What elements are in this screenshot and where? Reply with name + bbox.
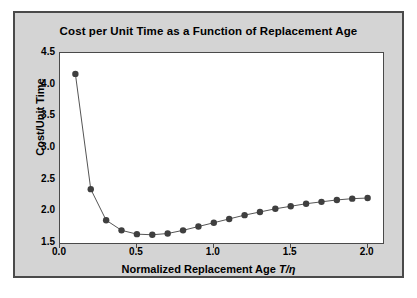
data-point-marker [272,206,278,212]
data-point-marker [103,217,109,223]
data-point-marker [180,227,186,233]
y-tick-label: 2.0 [29,205,55,215]
data-series-line [60,53,383,243]
data-point-marker [88,186,94,192]
data-point-marker [257,209,263,215]
chart-title: Cost per Unit Time as a Function of Repl… [15,25,402,37]
data-point-marker [195,223,201,229]
data-point-marker [318,199,324,205]
data-point-marker [211,220,217,226]
data-point-marker [149,232,155,238]
x-tick-label: 0.5 [116,247,156,257]
series-polyline [75,74,367,235]
data-point-marker [241,212,247,218]
data-point-marker [72,71,78,77]
data-point-marker [349,195,355,201]
data-point-marker [134,231,140,237]
plot-area [59,52,384,244]
figure-panel: Cost per Unit Time as a Function of Repl… [13,11,404,278]
data-point-marker [288,203,294,209]
y-axis-title: Cost/Unit Time [34,47,46,187]
data-point-marker [118,227,124,233]
data-point-marker [164,230,170,236]
x-tick-label: 0.0 [39,247,79,257]
data-point-marker [226,216,232,222]
x-tick-label: 2.0 [347,247,387,257]
x-axis-title: Normalized Replacement Age T/η [15,263,402,275]
data-point-marker [364,195,370,201]
x-axis-tick-labels: 0.00.51.01.52.0 [59,247,382,261]
x-tick-label: 1.5 [270,247,310,257]
data-point-marker [303,201,309,207]
x-tick-label: 1.0 [193,247,233,257]
data-point-marker [334,197,340,203]
x-axis-title-symbol: T/η [279,263,296,275]
x-axis-title-text: Normalized Replacement Age [122,263,279,275]
